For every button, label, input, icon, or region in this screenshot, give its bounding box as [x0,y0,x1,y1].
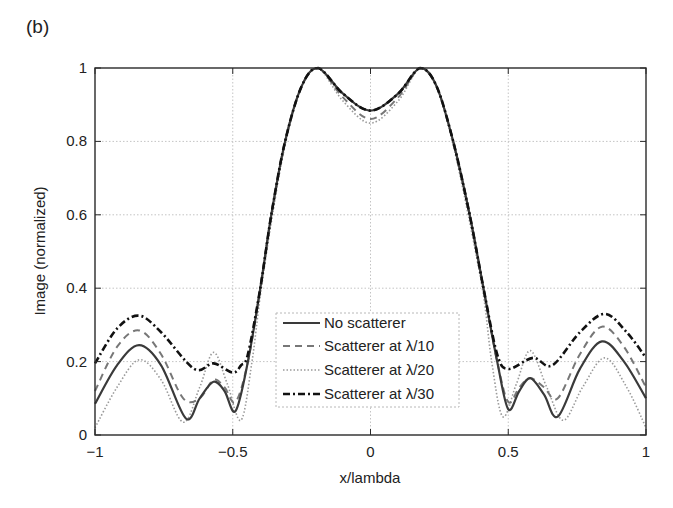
y-tick-labels: 00.20.40.60.81 [66,59,87,443]
y-tick-label: 0.8 [66,132,87,149]
y-tick-label: 0.6 [66,206,87,223]
y-tick-label: 0.4 [66,279,87,296]
line-chart: −1−0.500.51 00.20.40.60.81 x/lambda Imag… [0,0,673,508]
x-tick-label: −0.5 [218,443,248,460]
legend-label: Scatterer at λ/20 [324,361,434,378]
y-axis-label: Image (normalized) [31,186,48,315]
x-tick-label: 0.5 [498,443,519,460]
x-tick-labels: −1−0.500.51 [86,443,650,460]
x-axis-label: x/lambda [340,469,402,486]
legend-label: No scatterer [324,314,406,331]
y-tick-label: 0 [79,426,87,443]
y-tick-label: 1 [79,59,87,76]
y-tick-label: 0.2 [66,353,87,370]
x-tick-label: 0 [366,443,374,460]
legend-label: Scatterer at λ/30 [324,385,434,402]
legend: No scattererScatterer at λ/10Scatterer a… [276,313,459,407]
x-tick-label: 1 [642,443,650,460]
x-tick-label: −1 [86,443,103,460]
legend-label: Scatterer at λ/10 [324,337,434,354]
